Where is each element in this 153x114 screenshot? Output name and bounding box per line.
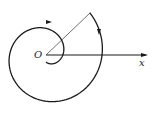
x-axis-label: x bbox=[139, 57, 145, 68]
origin-label: O bbox=[34, 49, 42, 60]
direction-arrow-top-icon bbox=[46, 20, 52, 24]
spiral-diagram: O x bbox=[0, 0, 153, 114]
spiral-curve bbox=[9, 13, 102, 102]
ray-to-spiral-end bbox=[46, 13, 90, 55]
